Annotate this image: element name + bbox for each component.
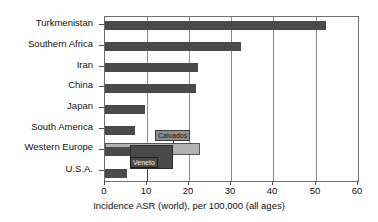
inset-connector-veneto <box>147 169 148 181</box>
gridline-50 <box>316 17 317 181</box>
y-axis-labels: Turkmenistan Southern Africa Iran China … <box>0 14 98 180</box>
bar-usa <box>105 169 127 178</box>
bar-japan <box>105 105 145 114</box>
x-axis-ticklabel-60: 60 <box>352 185 363 196</box>
bar-iran <box>105 63 198 72</box>
bar-china <box>105 84 196 93</box>
x-axis-ticklabel-50: 50 <box>310 185 321 196</box>
y-axis-label-china: China <box>0 80 93 90</box>
y-axis-label-western-europe: Western Europe <box>0 142 93 152</box>
bar-south-america <box>105 126 135 135</box>
y-axis-label-southern-africa: Southern Africa <box>0 39 93 49</box>
x-axis-ticklabel-30: 30 <box>225 185 236 196</box>
bar-turkmenistan <box>105 21 326 30</box>
inset-label-calvados: Calvados <box>155 130 190 141</box>
y-axis-label-japan: Japan <box>0 101 93 111</box>
y-axis-label-iran: Iran <box>0 60 93 70</box>
x-axis-ticklabel-40: 40 <box>267 185 278 196</box>
y-axis-label-south-america: South America <box>0 122 93 132</box>
x-axis-ticklabel-20: 20 <box>183 185 194 196</box>
x-axis: 0 10 20 30 40 50 60 <box>104 181 357 186</box>
x-axis-ticklabel-0: 0 <box>101 185 106 196</box>
plot-area: Calvados Veneto <box>104 16 359 182</box>
chart-container: Turkmenistan Southern Africa Iran China … <box>0 0 378 222</box>
y-axis-label-usa: U.S.A. <box>0 164 93 174</box>
bar-southern-africa <box>105 42 241 51</box>
x-axis-title: Incidence ASR (world), per 100,000 (all … <box>0 200 378 212</box>
x-axis-ticklabel-10: 10 <box>141 185 152 196</box>
y-axis-label-turkmenistan: Turkmenistan <box>0 18 93 28</box>
gridline-40 <box>273 17 274 181</box>
inset-label-veneto: Veneto <box>130 157 158 168</box>
